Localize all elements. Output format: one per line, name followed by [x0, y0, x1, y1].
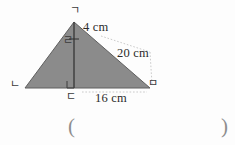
vertex-label-right: ㅁ — [148, 78, 158, 89]
dimension-label-hypotenuse: 20 cm — [117, 47, 149, 60]
vertex-label-left: ㄴ — [10, 79, 20, 90]
dimension-label-altitude: 4 cm — [83, 21, 108, 34]
vertex-label-foot: ㄷ — [66, 91, 76, 102]
answer-close-paren: ) — [221, 116, 228, 137]
answer-open-paren: ( — [68, 116, 75, 137]
answer-blank[interactable]: ( ) — [0, 112, 235, 145]
dimension-label-base: 16 cm — [95, 92, 127, 105]
vertex-label-altitude-mid: ㄹ — [63, 35, 73, 46]
vertex-label-apex: ㄱ — [70, 5, 80, 16]
